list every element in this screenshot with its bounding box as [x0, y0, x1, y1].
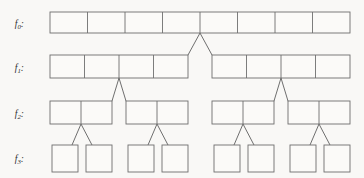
cell-block: [50, 12, 350, 33]
connector-f2-to-f3: [310, 124, 330, 145]
cell-block: [162, 145, 188, 172]
subdivision-diagram: f0:f1:f2:f3:: [0, 0, 364, 178]
block-outline: [86, 145, 112, 172]
connector-leg-right: [243, 124, 254, 145]
row-label-f2: f2:: [15, 109, 24, 120]
cell-block: [50, 101, 112, 124]
connector-leg-left: [72, 124, 81, 145]
connector-f2-to-f3: [72, 124, 92, 145]
cell-block: [86, 145, 112, 172]
connector-leg-right: [281, 78, 288, 101]
row-label-f1: f1:: [15, 63, 24, 74]
connector-leg-right: [319, 124, 330, 145]
connector-leg-left: [274, 78, 281, 101]
cell-row-f2: [50, 101, 350, 124]
block-outline: [52, 145, 78, 172]
block-outline: [248, 145, 274, 172]
cell-block: [324, 145, 350, 172]
block-outline: [290, 145, 316, 172]
cell-block: [52, 145, 78, 172]
connector-leg-right: [157, 124, 168, 145]
connector-leg-left: [234, 124, 243, 145]
diagram-root: f0:f1:f2:f3:: [0, 0, 364, 178]
block-outline: [324, 145, 350, 172]
block-outline: [128, 145, 154, 172]
block-outline: [162, 145, 188, 172]
connector-f2-to-f3: [234, 124, 254, 145]
connector-leg-left: [112, 78, 119, 101]
cell-block: [128, 145, 154, 172]
cell-block: [50, 55, 188, 78]
connectors-group: [72, 33, 330, 145]
cells-group: [50, 12, 350, 172]
row-label-f3: f3:: [15, 154, 24, 165]
connector-f1-to-f2: [274, 78, 288, 101]
block-outline: [214, 145, 240, 172]
connector-leg-right: [119, 78, 126, 101]
cell-block: [248, 145, 274, 172]
cell-block: [212, 55, 350, 78]
connector-leg-left: [310, 124, 319, 145]
cell-block: [126, 101, 188, 124]
cell-block: [212, 101, 274, 124]
connector-leg-right: [81, 124, 92, 145]
cell-row-f0: [50, 12, 350, 33]
connector-leg-right: [200, 33, 212, 55]
connector-leg-left: [148, 124, 157, 145]
connector-leg-left: [188, 33, 200, 55]
cell-block: [290, 145, 316, 172]
connector-f0-to-f1: [188, 33, 212, 55]
row-labels-group: f0:f1:f2:f3:: [15, 19, 24, 165]
cell-block: [288, 101, 350, 124]
cell-row-f3: [52, 145, 350, 172]
row-label-f0: f0:: [15, 19, 24, 30]
cell-block: [214, 145, 240, 172]
cell-row-f1: [50, 55, 350, 78]
connector-f1-to-f2: [112, 78, 126, 101]
connector-f2-to-f3: [148, 124, 168, 145]
